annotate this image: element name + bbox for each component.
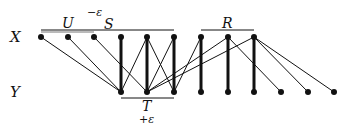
thin-edge (254, 37, 308, 92)
node-y (251, 89, 257, 95)
node-x (144, 34, 150, 40)
thin-edge (41, 37, 121, 92)
node-y (198, 89, 204, 95)
set-label-u: U (62, 15, 75, 31)
set-label-s: S (104, 16, 114, 32)
thin-edge (147, 37, 228, 92)
node-y (331, 89, 337, 95)
node-x (225, 34, 231, 40)
node-x (38, 34, 44, 40)
node-x (91, 34, 97, 40)
thin-edge (121, 37, 147, 92)
node-x (171, 34, 177, 40)
node-x (198, 34, 204, 40)
node-y (171, 89, 177, 95)
node-y (118, 89, 124, 95)
set-label-r: R (221, 15, 233, 31)
bipartite-graph-diagram: X Y U −ε S R T +ε (0, 0, 344, 127)
node-y (144, 89, 150, 95)
node-x (118, 34, 124, 40)
node-y (225, 89, 231, 95)
node-x (251, 34, 257, 40)
set-label-t: T (142, 98, 153, 114)
thin-edge (254, 37, 334, 92)
plus-epsilon-label: +ε (139, 113, 154, 126)
node-x (65, 34, 71, 40)
row-label-y: Y (10, 83, 22, 101)
minus-epsilon-label: −ε (87, 6, 102, 19)
node-y (278, 89, 284, 95)
row-label-x: X (9, 28, 22, 46)
thin-edge (68, 37, 121, 92)
node-y (305, 89, 311, 95)
thin-edges (41, 37, 334, 92)
